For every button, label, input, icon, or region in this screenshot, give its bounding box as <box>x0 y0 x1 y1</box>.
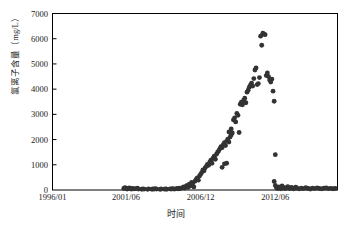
scatter-plot-area <box>0 0 351 235</box>
data-point <box>250 84 255 89</box>
data-point <box>259 43 264 48</box>
data-point <box>273 152 278 157</box>
chart-figure: 氯离子含量（mg/L） 0100020003000400050006000700… <box>0 0 351 235</box>
data-point <box>236 113 241 118</box>
data-point <box>213 157 218 162</box>
data-point <box>272 99 277 104</box>
data-point <box>263 32 268 37</box>
data-point <box>196 178 201 183</box>
y-axis-tick-marks <box>53 39 57 165</box>
data-point <box>227 140 232 145</box>
data-point <box>271 89 276 94</box>
data-point <box>224 161 229 166</box>
data-point <box>254 66 259 71</box>
data-point <box>237 130 242 135</box>
data-point <box>243 100 248 105</box>
data-point <box>272 179 277 184</box>
data-point <box>223 143 228 148</box>
data-point <box>270 77 275 82</box>
data-point <box>233 120 238 125</box>
plot-frame <box>53 14 338 191</box>
data-point <box>251 76 256 81</box>
data-point <box>333 186 338 191</box>
data-point-group <box>121 31 337 192</box>
data-point <box>256 81 261 86</box>
data-point <box>210 161 215 166</box>
data-point <box>191 185 196 190</box>
data-point <box>229 127 234 132</box>
data-point <box>257 75 262 80</box>
data-point <box>242 96 247 101</box>
